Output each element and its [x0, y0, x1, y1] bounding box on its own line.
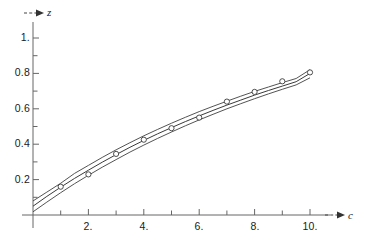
y-tick-label-0_2: 0.2	[0, 173, 30, 185]
y-axis-arrowhead	[36, 10, 44, 17]
axes-group	[22, 22, 330, 228]
lower-band-path	[33, 78, 310, 212]
marker-c8	[252, 89, 257, 94]
y-axis-label: z	[47, 6, 51, 18]
series-lower-band	[33, 78, 310, 212]
x-tick-label-2: 2.	[73, 220, 103, 232]
marker-c10	[307, 70, 312, 75]
marker-c1	[58, 184, 63, 189]
marker-c2	[86, 172, 91, 177]
y-tick-label-0_4: 0.4	[0, 137, 30, 149]
marker-c5	[169, 126, 174, 131]
x-axis-arrow-group	[325, 212, 345, 219]
central-curve-path	[33, 73, 310, 206]
series-upper-band	[33, 70, 310, 201]
x-tick-label-6: 6.	[184, 220, 214, 232]
x-tick-label-10: 10.	[295, 220, 325, 232]
marker-c9	[280, 79, 285, 84]
marker-c4	[141, 137, 146, 142]
marker-c3	[114, 151, 119, 156]
x-tick-label-8: 8.	[240, 220, 270, 232]
marker-c7	[224, 99, 229, 104]
y-axis-ticks	[33, 38, 39, 197]
series-central-curve	[33, 73, 310, 206]
upper-band-path	[33, 70, 310, 201]
x-axis-label: c	[348, 209, 353, 221]
x-axis-ticks	[61, 209, 310, 215]
x-axis-arrowhead	[337, 212, 345, 219]
chart-plot-area	[0, 0, 365, 243]
marker-c6	[197, 115, 202, 120]
x-tick-label-4: 4.	[129, 220, 159, 232]
y-tick-label-0_8: 0.8	[0, 66, 30, 78]
data-point-markers	[58, 70, 313, 189]
chart-container: 1. 0.8 0.6 0.4 0.2 2. 4. 6. 8. 10. z c	[0, 0, 365, 243]
y-tick-label-0_6: 0.6	[0, 102, 30, 114]
y-tick-label-1: 1.	[0, 31, 30, 43]
y-axis-arrow-group	[24, 10, 44, 17]
